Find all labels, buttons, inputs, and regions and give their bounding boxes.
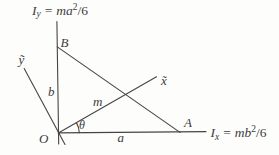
diagram-canvas: Iy=ma2/6 Ix=mb2/6 B A O ỹ x̃ b a m θ [0,0,279,155]
x-tilde-axis-label: x̃ [160,73,168,88]
y-tilde-axis-label: ỹ [17,52,26,67]
y-axis-line [57,22,59,145]
point-a-label: A [183,115,192,130]
x-axis-line [58,132,206,133]
angle-theta-label: θ [79,118,85,132]
mass-label: m [93,94,102,109]
rod-inertia-diagram: Iy=ma2/6 Ix=mb2/6 B A O ỹ x̃ b a m θ [0,0,279,155]
point-b-label: B [61,35,69,50]
x-tilde-axis-line [58,77,156,133]
rod-ab-line [57,47,180,132]
ix-axis-label: Ix=mb2/6 [210,124,267,142]
iy-axis-label: Iy=ma2/6 [31,2,88,20]
origin-label: O [39,131,49,146]
dim-b-label: b [48,84,55,99]
dim-a-label: a [118,130,125,145]
